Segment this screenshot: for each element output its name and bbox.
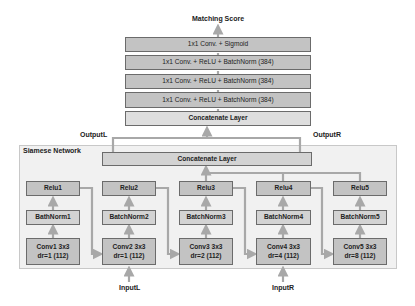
- batchnorm5-block: BatchNorm5: [333, 210, 387, 225]
- conv-relu-bn-layer-3-label: 1x1 Conv. + ReLU + BatchNorm (384): [162, 96, 273, 105]
- relu1-label: Relu1: [44, 184, 62, 193]
- batchnorm4-label: BatchNorm4: [264, 213, 303, 222]
- conv5-block: Conv5 3x3dr=8 (112): [333, 238, 387, 265]
- conv-relu-bn-layer-2: 1x1 Conv. + ReLU + BatchNorm (384): [125, 74, 311, 89]
- batchnorm2-block: BatchNorm2: [102, 210, 156, 225]
- batchnorm4-block: BatchNorm4: [256, 210, 311, 225]
- relu3-block: Relu3: [179, 181, 233, 196]
- relu5-block: Relu5: [333, 181, 387, 196]
- conv5-name: Conv5 3x3: [344, 243, 377, 252]
- matching-score-label: Matching Score: [0, 15, 415, 22]
- conv2-block: Conv2 3x3dr=1 (112): [102, 238, 156, 265]
- sigmoid-layer: 1x1 Conv. + Sigmoid: [125, 37, 311, 52]
- conv4-name: Conv4 3x3: [267, 243, 300, 252]
- conv3-block: Conv3 3x3dr=2 (112): [179, 238, 233, 265]
- relu5-label: Relu5: [351, 184, 369, 193]
- siamese-concatenate-label: Concatenate Layer: [178, 155, 237, 164]
- input-left-label: InputL: [119, 284, 140, 291]
- top-concatenate-layer: Concatenate Layer: [125, 111, 311, 126]
- siamese-concatenate-layer: Concatenate Layer: [102, 152, 312, 166]
- conv1-name: Conv1 3x3: [37, 243, 70, 252]
- output-right-label: OutputR: [313, 131, 341, 138]
- conv4-params: dr=4 (112): [268, 252, 299, 261]
- conv-relu-bn-layer-1: 1x1 Conv. + ReLU + BatchNorm (384): [125, 55, 311, 70]
- conv3-name: Conv3 3x3: [190, 243, 223, 252]
- batchnorm3-label: BatchNorm3: [186, 213, 225, 222]
- conv1-block: Conv1 3x3dr=1 (112): [26, 238, 80, 265]
- conv3-params: dr=2 (112): [191, 252, 222, 261]
- relu2-label: Relu2: [120, 184, 138, 193]
- top-concatenate-label: Concatenate Layer: [189, 114, 248, 123]
- conv5-params: dr=8 (112): [345, 252, 376, 261]
- input-right-label: InputR: [272, 284, 294, 291]
- conv2-params: dr=1 (112): [114, 252, 145, 261]
- sigmoid-layer-label: 1x1 Conv. + Sigmoid: [188, 40, 249, 49]
- conv-relu-bn-layer-1-label: 1x1 Conv. + ReLU + BatchNorm (384): [162, 58, 273, 67]
- batchnorm1-label: BathNorm1: [35, 213, 71, 222]
- batchnorm2-label: BatchNorm2: [109, 213, 148, 222]
- relu3-label: Relu3: [197, 184, 215, 193]
- batchnorm3-block: BatchNorm3: [179, 210, 233, 225]
- relu4-block: Relu4: [256, 181, 311, 196]
- conv1-params: dr=1 (112): [38, 252, 69, 261]
- relu1-block: Relu1: [26, 181, 80, 196]
- relu2-block: Relu2: [102, 181, 156, 196]
- conv2-name: Conv2 3x3: [113, 243, 146, 252]
- conv-relu-bn-layer-2-label: 1x1 Conv. + ReLU + BatchNorm (384): [162, 77, 273, 86]
- relu4-label: Relu4: [275, 184, 293, 193]
- batchnorm5-label: BatchNorm5: [340, 213, 379, 222]
- batchnorm1-block: BathNorm1: [26, 210, 80, 225]
- conv4-block: Conv4 3x3dr=4 (112): [256, 238, 311, 265]
- output-left-label: OutputL: [80, 131, 107, 138]
- conv-relu-bn-layer-3: 1x1 Conv. + ReLU + BatchNorm (384): [125, 92, 311, 108]
